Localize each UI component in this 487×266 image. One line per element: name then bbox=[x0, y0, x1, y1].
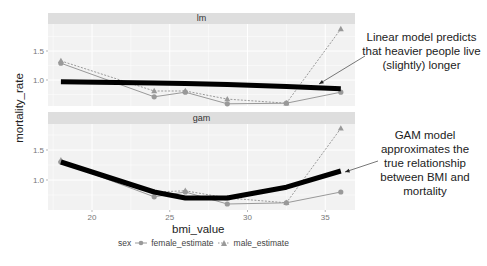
legend-title: sex bbox=[118, 238, 131, 248]
x-axis-label: bmi_value bbox=[172, 223, 224, 235]
facet-gam: gam1.01.5 bbox=[33, 112, 355, 210]
circle-icon bbox=[135, 239, 147, 247]
y-tick-label: 1.0 bbox=[33, 176, 45, 185]
circle-marker-icon bbox=[338, 189, 343, 194]
annotation-lm: Linear model predicts that heavier peopl… bbox=[356, 30, 487, 72]
y-tick-label: 1.5 bbox=[33, 47, 45, 56]
legend-male: male_estimate bbox=[234, 238, 289, 248]
x-tick-label: 25 bbox=[165, 213, 174, 222]
legend-female: female_estimate bbox=[151, 238, 213, 248]
facet-strip-label: gam bbox=[193, 113, 211, 123]
y-axis-label: mortality_rate bbox=[13, 63, 25, 153]
annotation-gam: GAM model approximates the true relation… bbox=[372, 128, 478, 198]
circle-marker-icon bbox=[225, 201, 230, 206]
x-tick-label: 35 bbox=[321, 213, 330, 222]
circle-marker-icon bbox=[225, 101, 230, 106]
x-tick-label: 30 bbox=[243, 213, 252, 222]
y-tick-label: 1.0 bbox=[33, 76, 45, 85]
legend: sex female_estimate male_estimate bbox=[118, 238, 289, 248]
triangle-icon bbox=[218, 239, 230, 247]
facet-lm: lm1.01.5 bbox=[33, 13, 355, 106]
facet-strip-label: lm bbox=[197, 13, 207, 23]
x-tick-label: 20 bbox=[88, 213, 97, 222]
circle-marker-icon bbox=[152, 94, 157, 99]
circle-marker-icon bbox=[152, 194, 157, 199]
y-tick-label: 1.5 bbox=[33, 146, 45, 155]
